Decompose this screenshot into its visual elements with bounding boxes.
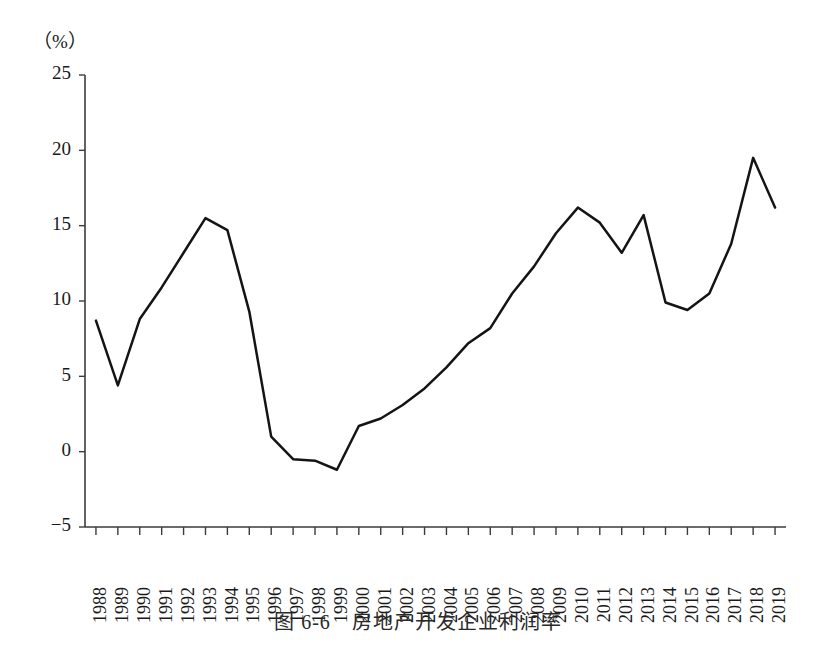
figure-container: （%） 2520151050−5 19881989199019911992199…	[0, 0, 836, 648]
x-axis-tick-marks	[96, 527, 775, 535]
profit-rate-series-line	[96, 158, 775, 470]
y-axis-tick-labels: 2520151050−5	[51, 62, 71, 535]
y-axis-tick-label: −5	[51, 514, 71, 535]
figure-caption: 图 6-6 房地产开发企业利润率	[0, 606, 836, 635]
y-axis-tick-marks	[79, 75, 85, 527]
profit-rate-line-chart: （%） 2520151050−5 19881989199019911992199…	[0, 0, 836, 648]
y-axis-tick-label: 25	[52, 62, 71, 83]
y-axis-tick-label: 0	[62, 439, 72, 460]
y-axis-unit-label: （%）	[33, 31, 87, 52]
y-axis-tick-label: 10	[52, 288, 71, 309]
y-axis-tick-label: 15	[52, 213, 71, 234]
y-axis-tick-label: 5	[62, 364, 72, 385]
y-axis-tick-label: 20	[52, 138, 71, 159]
